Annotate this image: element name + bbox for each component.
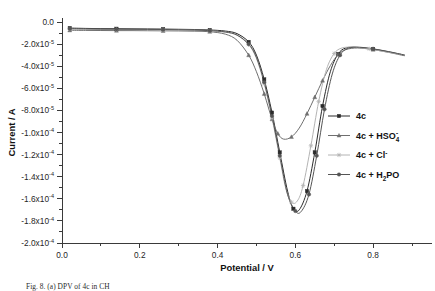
y-axis-tick-label: -1.8x10-4 [21,216,54,226]
x-axis-tick-label: 0.4 [212,250,224,260]
series-line [70,30,404,139]
y-axis-tick-label: -8.0x10-5 [21,105,54,115]
y-axis-tick-label: -1.0x10-4 [21,127,54,137]
y-axis-tick-label: -6.0x10-5 [21,83,54,93]
data-point-marker [270,111,273,114]
legend-label: 4c + H2PO [356,170,399,182]
data-point-marker [337,173,341,177]
markers-group [68,26,376,212]
series-line [70,28,404,212]
y-axis-title: Current / A [6,108,17,156]
data-point-marker [294,209,298,213]
data-point-marker [161,28,165,32]
data-point-marker [262,92,266,96]
y-axis-tick-label: -4.0x10-5 [21,61,54,71]
data-point-marker [309,144,313,148]
data-point-marker [338,53,342,57]
data-point-marker [270,114,274,118]
x-axis-tick-label: 0.8 [367,250,379,260]
data-point-marker [262,80,266,84]
figure-caption: Fig. 8. (a) DPV of 4c in CH [26,282,110,291]
data-point-marker [337,114,340,117]
data-point-marker [315,154,319,158]
y-axis-tick-label: 0.0 [42,17,54,27]
data-point-marker [278,154,282,158]
data-point-marker [316,99,320,103]
x-axis-tick-label: 0.6 [290,250,302,260]
x-axis-tick-label: 0.2 [134,250,146,260]
data-point-marker [321,104,324,107]
data-point-marker [313,151,316,154]
data-point-marker [301,183,305,187]
data-point-marker [305,112,309,116]
data-point-marker [289,200,293,204]
data-point-marker [247,42,251,46]
data-point-marker [371,47,375,51]
series-line [70,29,404,203]
legend-label: 4c + HSO4- [356,129,400,142]
y-axis-tick-label: -1.4x10-4 [21,171,54,181]
data-point-marker [68,27,72,31]
series-line [70,29,404,214]
data-point-marker [278,151,281,154]
y-axis-tick-label: -1.2x10-4 [21,149,54,159]
data-point-marker [323,107,327,111]
data-point-marker [337,153,341,157]
data-point-marker [332,51,336,55]
data-point-marker [305,189,308,192]
data-point-marker [115,27,119,31]
data-point-marker [307,193,311,197]
x-axis-title: Potential / V [220,262,274,273]
curves-group [70,28,404,213]
legend-label: 4c [356,111,366,121]
y-axis-tick-label: -2.0x10-5 [21,39,54,49]
legend: 4c4c + HSO4-4c + Cl-4c + H2PO [328,111,400,181]
y-axis-tick-label: -2.0x10-4 [21,238,54,248]
x-axis-tick-label: 0.0 [56,250,68,260]
data-point-marker [313,95,317,99]
legend-label: 4c + Cl- [356,149,387,160]
data-point-marker [367,47,371,51]
y-axis-tick-label: -1.6x10-4 [21,193,54,203]
data-point-marker [208,29,212,33]
